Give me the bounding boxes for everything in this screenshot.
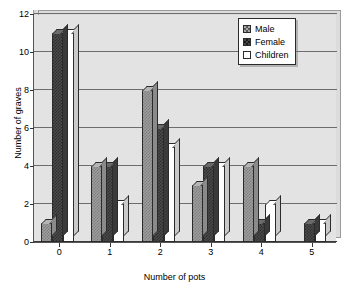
- gridline: [34, 241, 337, 242]
- bar-chart: 024681012 012345 Number of graves Number…: [0, 0, 349, 290]
- bar-side-face: [175, 138, 180, 236]
- y-axis-title: Number of graves: [13, 53, 23, 193]
- legend-item-children: Children: [243, 48, 289, 61]
- legend-item-label: Children: [255, 50, 289, 60]
- legend-item-female: Female: [243, 35, 289, 48]
- bar-side-face: [113, 157, 118, 236]
- y-tick-label: 6: [24, 123, 34, 133]
- x-tick-label: 2: [158, 247, 163, 257]
- bar-male-0: [41, 223, 52, 242]
- bar-side-face: [214, 157, 219, 236]
- gridline: [34, 13, 337, 14]
- hatched-gray-swatch: [243, 25, 251, 33]
- x-tick-label: 0: [57, 247, 62, 257]
- x-tick-label: 4: [259, 247, 264, 257]
- gridline: [34, 203, 337, 204]
- bar-side-face: [74, 24, 79, 236]
- y-tick-label: 0: [24, 237, 34, 247]
- bar-side-face: [276, 195, 281, 236]
- hatched-dark-swatch: [243, 38, 251, 46]
- bar-female-5: [304, 223, 315, 242]
- bar-side-face: [203, 176, 208, 236]
- x-tick-label: 5: [309, 247, 314, 257]
- y-tick-label: 12: [19, 9, 34, 19]
- x-tick-label: 3: [208, 247, 213, 257]
- bar-male-3: [192, 185, 203, 242]
- bar-side-face: [326, 214, 331, 236]
- y-tick-label: 4: [24, 161, 34, 171]
- white-swatch: [243, 51, 251, 59]
- bar-side-face: [254, 157, 259, 236]
- bar-side-face: [63, 24, 68, 236]
- bar-side-face: [225, 157, 230, 236]
- gridline: [34, 89, 337, 90]
- y-tick-label: 2: [24, 199, 34, 209]
- legend-item-label: Female: [255, 37, 285, 47]
- bar-side-face: [153, 81, 158, 236]
- gridline: [34, 165, 337, 166]
- x-tick-label: 1: [107, 247, 112, 257]
- bar-side-face: [124, 195, 129, 236]
- bar-female-0: [52, 33, 63, 242]
- gridline: [34, 127, 337, 128]
- bar-side-face: [164, 119, 169, 236]
- y-tick-label: 8: [24, 85, 34, 95]
- x-axis-title: Number of pots: [0, 272, 349, 282]
- bar-male-1: [91, 166, 102, 242]
- bar-side-face: [102, 157, 107, 236]
- bar-male-4: [243, 166, 254, 242]
- chart-legend: MaleFemaleChildren: [238, 18, 296, 65]
- bar-male-2: [142, 90, 153, 242]
- legend-item-label: Male: [255, 24, 275, 34]
- legend-item-male: Male: [243, 22, 289, 35]
